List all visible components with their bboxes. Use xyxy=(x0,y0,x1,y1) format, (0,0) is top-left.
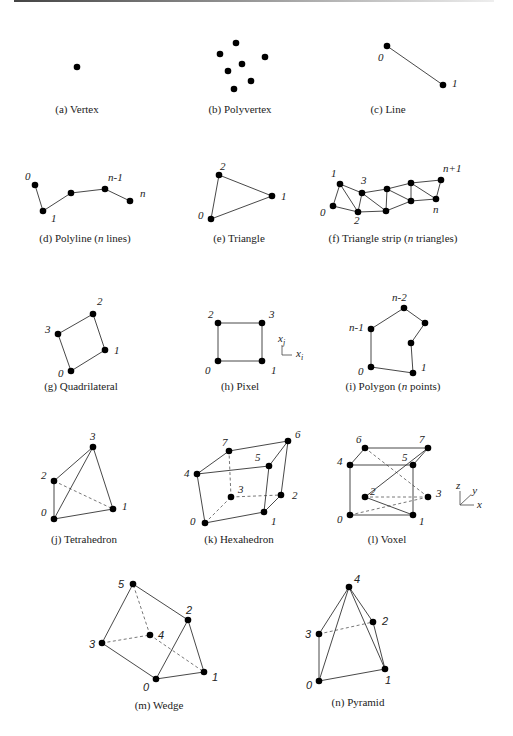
vertex-dot xyxy=(316,678,323,685)
edge xyxy=(58,314,93,334)
vertex-dot xyxy=(202,520,209,527)
vertex-dot xyxy=(368,364,375,371)
edge xyxy=(58,334,71,371)
vertex-label: 1 xyxy=(421,361,427,373)
vertex-dot xyxy=(337,181,344,188)
cell-voxel: 01234567zyx(l) Voxel xyxy=(337,433,482,546)
vertex-dot xyxy=(269,193,276,200)
caption-voxel: (l) Voxel xyxy=(368,533,406,546)
edge xyxy=(211,196,272,219)
caption-polyvertex: (b) Polyvertex xyxy=(208,103,272,116)
vertex-dot xyxy=(347,512,354,519)
edge xyxy=(411,183,436,199)
vertex-dot xyxy=(239,61,246,68)
edge xyxy=(319,587,349,634)
vertex-dot xyxy=(368,326,375,333)
axis-y xyxy=(460,495,471,506)
caption-hexahedron: (k) Hexahedron xyxy=(204,533,274,546)
vertex-label: 0 xyxy=(306,679,313,691)
vertex-label: 2 xyxy=(220,160,226,172)
vertex-label: 0 xyxy=(25,170,31,182)
vertex-dot xyxy=(362,494,369,501)
vertex-dot xyxy=(259,358,266,365)
vertex-label: n xyxy=(433,203,439,215)
hidden-edge xyxy=(133,584,150,635)
vertex-dot xyxy=(410,512,417,519)
vertex-label: 0 xyxy=(320,206,326,218)
cell-pyramid: 01234(n) Pyramid xyxy=(305,573,391,709)
vertex-dot xyxy=(216,172,223,179)
edge xyxy=(54,447,93,481)
vertex-label: 2 xyxy=(208,308,214,320)
vertex-dot xyxy=(130,581,137,588)
vertex-dot xyxy=(408,198,415,205)
vertex-label: 3 xyxy=(305,628,312,640)
vertex-label: 1 xyxy=(271,515,277,527)
edge xyxy=(54,447,93,519)
edge xyxy=(105,189,130,201)
vertex-dot xyxy=(383,208,390,215)
vertex-dot xyxy=(408,340,415,347)
edge xyxy=(411,323,425,343)
edge xyxy=(93,314,105,350)
cell-pixel: 0123xjxi(h) Pixel xyxy=(205,308,303,393)
cell-triangle-strip: 1302n+1n(f) Triangle strip (n triangles) xyxy=(320,162,461,245)
vertex-dot xyxy=(346,584,353,591)
vertex-label: 0 xyxy=(190,515,196,527)
caption-quadrilateral: (g) Quadrilateral xyxy=(44,380,118,393)
cell-hexahedron: 01234567(k) Hexahedron xyxy=(184,428,301,546)
vtk-cell-types-figure: (a) Vertex(b) Polyvertex01(c) Line01n-1n… xyxy=(0,0,513,736)
vertex-dot xyxy=(278,492,285,499)
edge xyxy=(386,189,387,211)
cell-vertex: (a) Vertex xyxy=(55,64,99,116)
cell-tetrahedron: 0123(j) Tetrahedron xyxy=(41,430,128,546)
vertex-dot xyxy=(410,370,417,377)
vertex-dot xyxy=(440,82,447,89)
vertex-dot xyxy=(362,445,369,452)
edge xyxy=(133,584,188,620)
vertex-dot xyxy=(347,462,354,469)
edge xyxy=(333,184,340,206)
vertex-dot xyxy=(208,216,215,223)
vertex-label: 7 xyxy=(222,436,228,448)
edge xyxy=(350,448,365,465)
edge xyxy=(319,587,349,681)
edge xyxy=(156,672,204,679)
cell-line: 01(c) Line xyxy=(370,43,457,116)
edge xyxy=(362,189,387,193)
vertex-dot xyxy=(194,471,201,478)
axis-label-j: xj xyxy=(277,332,286,347)
vertex-dot xyxy=(215,358,222,365)
edge xyxy=(188,620,204,672)
vertex-dot xyxy=(330,203,337,210)
vertex-dot xyxy=(384,43,391,50)
vertex-dot xyxy=(266,463,273,470)
vertex-label: 1 xyxy=(281,190,287,202)
vertex-label: n+1 xyxy=(443,162,461,174)
vertex-dot xyxy=(90,444,97,451)
edge xyxy=(411,180,441,183)
vertex-dot xyxy=(259,320,266,327)
caption-tetrahedron: (j) Tetrahedron xyxy=(51,533,117,546)
vertex-dot xyxy=(316,631,323,638)
vertex-label: 5 xyxy=(402,451,408,463)
edge xyxy=(386,201,411,211)
vertex-dot xyxy=(110,506,117,513)
edge xyxy=(349,587,385,669)
edge xyxy=(319,669,385,681)
vertex-label: 1 xyxy=(122,500,128,512)
vertex-label: 0 xyxy=(198,209,204,221)
vertex-dot xyxy=(262,54,269,61)
edge xyxy=(411,199,436,201)
edge xyxy=(340,184,358,212)
vertex-label: 0 xyxy=(378,51,384,63)
vertex-dot xyxy=(384,186,391,193)
caption-triangle-strip: (f) Triangle strip (n triangles) xyxy=(329,232,458,245)
axis-label-i: xi xyxy=(295,347,303,362)
vertex-dot xyxy=(215,320,222,327)
vertex-label: 1 xyxy=(452,77,458,89)
edge xyxy=(102,643,156,679)
vertex-label: 3 xyxy=(89,430,96,442)
vertex-dot xyxy=(99,640,106,647)
edge xyxy=(54,509,113,519)
